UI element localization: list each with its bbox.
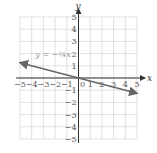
y-tick-label: −1 — [65, 86, 77, 95]
y-tick-label: −4 — [65, 123, 77, 132]
y-tick-label: −3 — [65, 111, 77, 120]
y-tick-label: 2 — [71, 50, 76, 59]
y-tick-label: 5 — [71, 13, 76, 22]
x-tick-label: −3 — [38, 80, 50, 89]
y-tick-label: 4 — [71, 25, 76, 34]
x-tick-label: 4 — [123, 80, 128, 89]
y-tick-label: −5 — [65, 135, 77, 144]
x-tick-label: −5 — [14, 80, 26, 89]
x-axis-label: x — [147, 73, 152, 83]
y-axis-label: y — [75, 1, 82, 11]
y-tick-label: −2 — [65, 98, 77, 107]
y-tick-label: 1 — [71, 62, 76, 71]
x-tick-label: −4 — [26, 80, 38, 89]
x-tick-label: 0 — [80, 80, 85, 89]
x-tick-label: 5 — [134, 80, 139, 89]
coordinate-plane: −5−4−3−2−1012345−5−4−3−2−112345 x y y = … — [0, 0, 157, 153]
y-tick-label: 3 — [71, 37, 76, 46]
equation-label: y = −¼x — [34, 50, 71, 59]
x-tick-label: −2 — [49, 80, 61, 89]
